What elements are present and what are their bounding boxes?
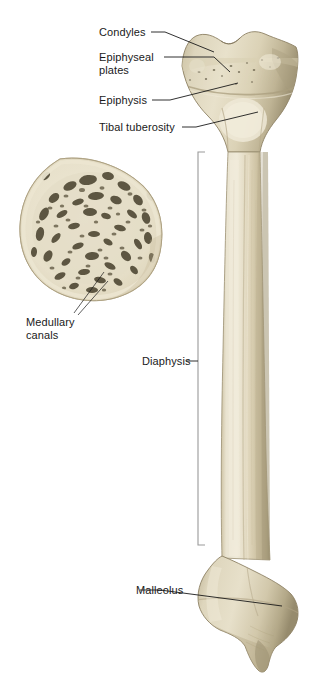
- proximal-epiphysis: [178, 32, 300, 152]
- label-malleolus: Malleolus: [136, 584, 183, 597]
- label-epiphyseal-plates: Epiphyseal plates: [99, 51, 179, 77]
- distal-epiphysis: [196, 556, 302, 680]
- label-tibal-tuberosity: Tibal tuberosity: [99, 121, 175, 134]
- diaphysis-shaft: [221, 152, 272, 560]
- diaphysis-bracket: [198, 152, 205, 545]
- label-diaphysis: Diaphysis: [142, 355, 191, 368]
- label-epiphysis: Epiphysis: [99, 94, 147, 107]
- anatomy-figure: Condyles Epiphyseal plates Epiphysis Tib…: [0, 0, 325, 681]
- label-medullary-canals: Medullary canals: [26, 316, 106, 342]
- label-condyles: Condyles: [99, 26, 146, 39]
- bone-cross-section: [20, 158, 170, 310]
